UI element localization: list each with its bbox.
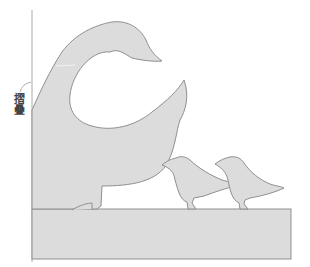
base-block <box>32 209 291 259</box>
fold-label: 摺疊 <box>10 93 24 115</box>
label-leader-line <box>20 82 31 92</box>
goose-silhouette <box>32 22 187 209</box>
illustration <box>0 0 310 267</box>
